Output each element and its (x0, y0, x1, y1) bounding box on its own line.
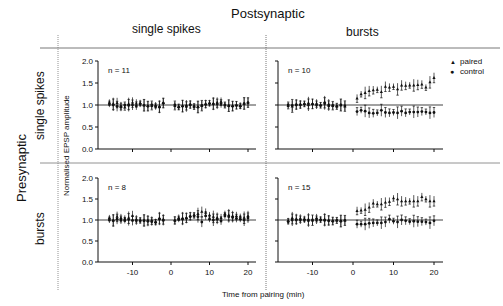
control-marker (384, 221, 387, 224)
control-marker (173, 104, 176, 107)
y-tick-label: 1.5 (82, 79, 94, 88)
control-marker (162, 102, 165, 105)
control-marker (108, 219, 111, 222)
control-marker (135, 104, 138, 107)
control-marker (319, 219, 322, 222)
control-marker (243, 219, 246, 222)
control-marker (303, 219, 306, 222)
control-marker (392, 220, 395, 223)
control-marker (339, 104, 342, 107)
panel-1: 0.00.51.01.52.0n = 11 (82, 57, 256, 154)
control-marker (287, 220, 290, 223)
control-marker (227, 215, 230, 218)
control-marker (380, 222, 383, 225)
control-marker (131, 104, 134, 107)
control-marker (224, 104, 227, 107)
control-marker (162, 219, 165, 222)
control-marker (425, 111, 428, 114)
y-tick-label: 0.0 (82, 145, 94, 154)
control-marker (335, 105, 338, 108)
y-tick-label: 0.5 (82, 123, 94, 132)
control-marker (239, 105, 242, 108)
paired-marker (424, 197, 427, 200)
y-tick-label: 0.0 (82, 258, 94, 267)
control-marker (227, 104, 230, 107)
control-marker (356, 223, 359, 226)
control-marker (181, 105, 184, 108)
control-marker (299, 104, 302, 107)
paired-marker (355, 209, 358, 212)
paired-marker (364, 91, 367, 94)
paired-marker (200, 210, 203, 213)
control-marker (177, 218, 180, 221)
control-marker (416, 220, 419, 223)
control-marker (315, 219, 318, 222)
x-tick-label: 0 (169, 268, 174, 277)
control-marker (147, 220, 150, 223)
control-marker (193, 105, 196, 108)
control-marker (158, 218, 161, 221)
control-marker (127, 104, 130, 107)
control-marker (120, 219, 123, 222)
control-marker (331, 104, 334, 107)
paired-marker (372, 202, 375, 205)
n-annotation: n = 11 (108, 66, 130, 75)
control-marker (123, 219, 126, 222)
control-marker (344, 219, 347, 222)
control-marker (173, 219, 176, 222)
paired-marker (392, 197, 395, 200)
control-marker (200, 221, 203, 224)
paired-marker (412, 200, 415, 203)
control-marker (396, 221, 399, 224)
control-marker (120, 106, 123, 109)
paired-marker (428, 81, 431, 84)
control-marker (372, 112, 375, 115)
n-annotation: n = 10 (288, 66, 311, 75)
control-marker (344, 104, 347, 107)
y-tick-label: 1.5 (82, 195, 94, 204)
paired-marker (380, 90, 383, 93)
paired-marker (392, 85, 395, 88)
control-marker (235, 104, 238, 107)
paired-marker (380, 202, 383, 205)
paired-marker (368, 206, 371, 209)
control-marker (150, 220, 153, 223)
paired-marker (376, 202, 379, 205)
paired-marker (408, 200, 411, 203)
paired-marker (416, 200, 419, 203)
control-marker (139, 103, 142, 106)
paired-marker (368, 89, 371, 92)
control-marker (412, 111, 415, 114)
control-marker (380, 109, 383, 112)
control-marker (364, 110, 367, 113)
control-marker (360, 223, 363, 226)
control-marker (235, 217, 238, 220)
paired-marker (404, 200, 407, 203)
control-marker (408, 220, 411, 223)
control-marker (212, 219, 215, 222)
control-marker (116, 218, 119, 221)
paired-marker (432, 76, 435, 79)
paired-marker (364, 208, 367, 211)
n-annotation: n = 8 (108, 183, 127, 192)
control-marker (392, 111, 395, 114)
control-marker (404, 219, 407, 222)
y-tick-label: 2.0 (82, 57, 94, 66)
x-tick-label: 10 (205, 268, 214, 277)
control-marker (429, 222, 432, 225)
paired-marker (388, 200, 391, 203)
control-marker (356, 110, 359, 113)
control-marker (189, 215, 192, 218)
control-marker (323, 102, 326, 105)
control-marker (177, 106, 180, 109)
control-marker (231, 216, 234, 219)
control-marker (204, 103, 207, 106)
paired-marker (400, 84, 403, 87)
y-tick-label: 1.0 (82, 101, 94, 110)
control-marker (372, 222, 375, 225)
panel-3: 0.00.51.01.52.0-1001020n = 8 (82, 174, 256, 277)
control-marker (143, 219, 146, 222)
paired-marker (432, 200, 435, 203)
x-tick-label: 10 (389, 268, 398, 277)
control-marker (197, 106, 200, 109)
